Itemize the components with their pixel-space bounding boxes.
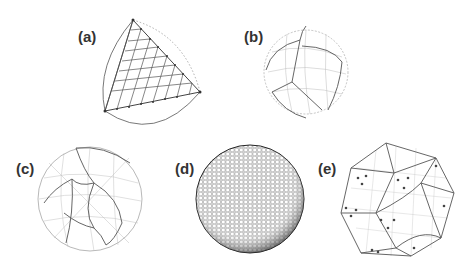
panel-d-label: (d) [175, 160, 194, 177]
panel-a-label: (a) [78, 28, 96, 45]
panel-e-polyhedron-diagram [336, 138, 461, 263]
panel-c-sphere-diagram [34, 143, 146, 255]
panel-e-label: (e) [318, 160, 336, 177]
panel-b-sphere-diagram [262, 22, 352, 122]
panel-b-label: (b) [244, 28, 263, 45]
panel-d-hex-sphere [194, 140, 306, 258]
panel-c-label: (c) [16, 160, 34, 177]
panel-a-triangle-diagram [95, 15, 205, 127]
